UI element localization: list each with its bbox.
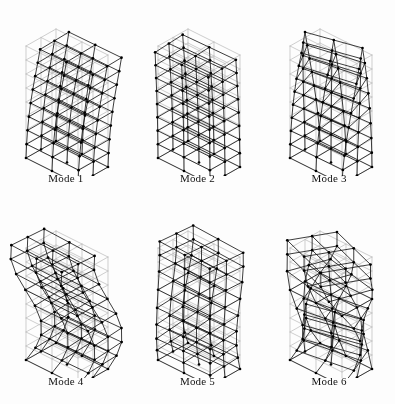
mode-shape-canvas-5	[132, 202, 263, 378]
mode-label-2: Mode 2	[180, 172, 215, 184]
mode-label-6: Mode 6	[312, 375, 347, 387]
mode-shape-canvas-1	[0, 0, 131, 176]
mode-label-3: Mode 3	[312, 172, 347, 184]
mode-shape-canvas-2	[132, 0, 263, 176]
mode-panel-4: Mode 4	[0, 202, 132, 404]
mode-panel-1: Mode 1	[0, 0, 132, 202]
mode-panel-6: Mode 6	[263, 202, 395, 404]
mode-shape-canvas-3	[264, 0, 395, 176]
mode-shape-canvas-4	[0, 202, 131, 378]
mode-panel-5: Mode 5	[132, 202, 264, 404]
mode-label-1: Mode 1	[48, 172, 83, 184]
mode-shape-figure-grid: Mode 1 Mode 2 Mode 3 Mode 4 Mode 5 Mode …	[0, 0, 395, 404]
mode-label-5: Mode 5	[180, 375, 215, 387]
mode-panel-2: Mode 2	[132, 0, 264, 202]
mode-label-4: Mode 4	[48, 375, 83, 387]
mode-panel-3: Mode 3	[263, 0, 395, 202]
mode-shape-canvas-6	[264, 202, 395, 378]
